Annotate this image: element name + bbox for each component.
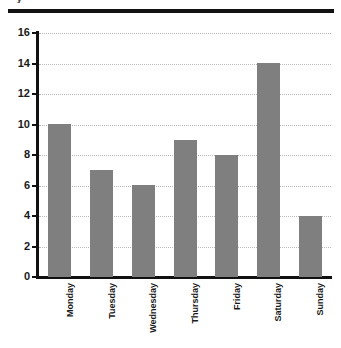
bar[interactable] [132, 185, 155, 277]
y-axis-tick-label-wrap: 16 [0, 27, 30, 38]
bar-series [39, 33, 331, 277]
bar[interactable] [174, 140, 197, 277]
x-axis-labels: MondayTuesdayWednesdayThursdayFridaySatu… [39, 281, 331, 347]
bar[interactable] [257, 63, 280, 277]
x-axis-label: Sunday [315, 283, 325, 316]
y-axis-tick-label-wrap: 4 [0, 210, 30, 221]
y-axis-tick-label: 10 [2, 119, 30, 130]
x-axis-label: Wednesday [148, 283, 158, 333]
y-axis-tick-label: 6 [2, 180, 30, 191]
y-axis-tick-label-wrap: 12 [0, 88, 30, 99]
y-axis-tick [32, 215, 37, 217]
y-axis-tick-label: 4 [2, 210, 30, 221]
x-axis-label: Thursday [190, 283, 200, 324]
bar[interactable] [299, 216, 322, 277]
x-axis-label: Monday [65, 283, 75, 317]
y-axis-tick-label-wrap: 10 [0, 119, 30, 130]
y-axis-tick-label: 14 [2, 58, 30, 69]
y-axis-tick-label-wrap: 8 [0, 149, 30, 160]
bar[interactable] [90, 170, 113, 277]
y-axis-tick [32, 63, 37, 65]
y-axis-tick-label: 0 [2, 271, 30, 282]
bar[interactable] [48, 124, 71, 277]
y-axis-tick [32, 32, 37, 34]
y-axis-tick-label: 16 [2, 27, 30, 38]
y-axis-tick-label-wrap: 0 [0, 271, 30, 282]
x-axis-label: Tuesday [107, 283, 117, 319]
y-axis-tick-label: 2 [2, 241, 30, 252]
y-axis-tick [32, 276, 37, 278]
y-axis-tick [32, 124, 37, 126]
y-axis-tick [32, 154, 37, 156]
y-axis-tick-label: 8 [2, 149, 30, 160]
clipped-title-fragment: y [16, 0, 23, 3]
y-axis-tick [32, 185, 37, 187]
y-axis-tick-label-wrap: 6 [0, 180, 30, 191]
header-rule [8, 9, 334, 13]
chart-page: y 0246810121416 MondayTuesdayWednesdayTh… [0, 0, 341, 348]
y-axis-tick-label: 12 [2, 88, 30, 99]
x-axis-label: Friday [232, 283, 242, 310]
y-axis-tick-label-wrap: 14 [0, 58, 30, 69]
x-axis-label: Saturday [273, 283, 283, 322]
y-axis-tick [32, 93, 37, 95]
bar[interactable] [215, 155, 238, 277]
y-axis-tick-label-wrap: 2 [0, 241, 30, 252]
y-axis-tick [32, 246, 37, 248]
